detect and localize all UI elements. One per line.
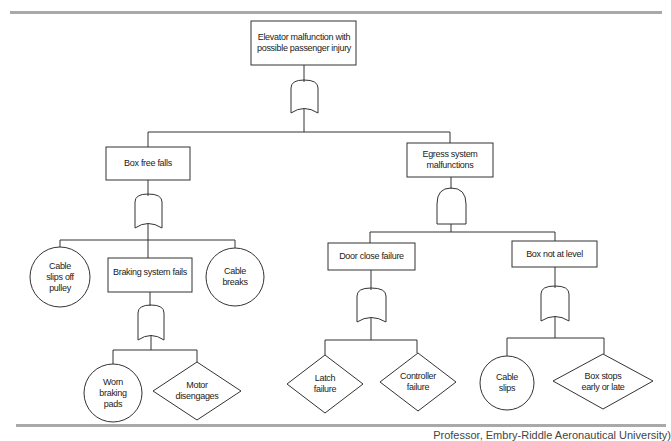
or-gate-icon [138,305,164,340]
figure-caption: Professor, Embry-Riddle Aeronautical Uni… [330,429,671,441]
door-close-label: Door close failure [328,243,415,270]
and-gate-icon [437,188,466,224]
cable-breaks-label: Cable breaks [217,265,253,289]
motor-label: Motor disengages [170,378,224,404]
box-stops-label: Box stops early or late [580,366,626,398]
or-gate-icon [357,288,386,322]
or-gate-icon [135,194,162,228]
egress-label: Egress system malfunctions [415,143,485,177]
top-event-label: Elevator malfunction with possible passe… [256,22,352,64]
braking-label: Braking system fails [112,258,188,286]
worn-pads-label: Worn braking pads [93,377,133,409]
cable-slips-pulley-label: Cable slips off pulley [40,262,80,292]
or-gate-icon [541,286,569,321]
box-not-level-label: Box not at level [512,241,597,267]
cable-slips-label: Cable slips [489,371,525,395]
controller-label: Controller failure [392,370,444,394]
latch-label: Latch failure [303,372,347,396]
box-free-falls-label: Box free falls [106,147,190,180]
